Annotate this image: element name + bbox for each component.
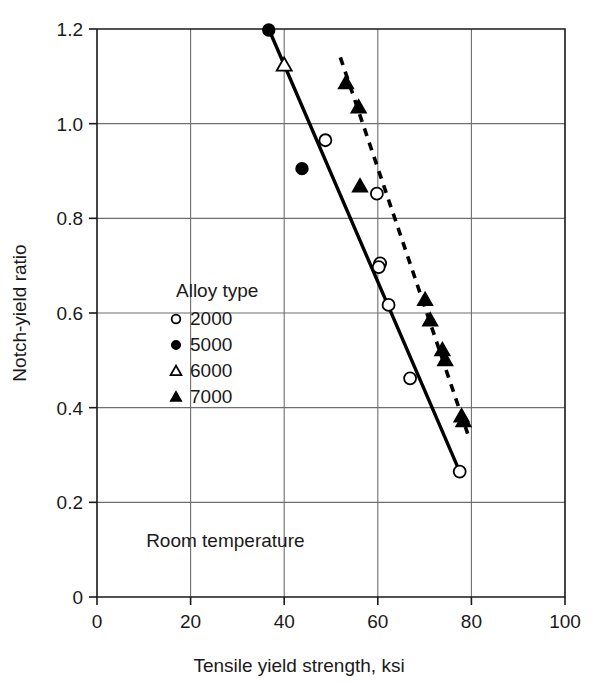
x-tick-label: 40 [274,611,295,632]
marker-open-circle [319,134,331,146]
y-axis-title: Notch-yield ratio [9,244,30,381]
y-tick-label: 0.8 [57,208,83,229]
x-tick-label: 100 [549,611,581,632]
x-tick-label: 80 [461,611,482,632]
marker-open-circle [383,299,395,311]
x-tick-label: 60 [367,611,388,632]
legend-entry-label: 7000 [190,386,232,407]
marker-open-circle-legend [172,315,181,324]
legend-title: Alloy type [176,280,258,301]
marker-open-circle [404,372,416,384]
y-tick-label: 1.2 [57,19,83,40]
y-tick-label: 0 [72,587,83,608]
x-axis-title: Tensile yield strength, ksi [193,655,404,676]
legend-entry-label: 6000 [190,360,232,381]
marker-filled-circle [296,163,308,175]
y-tick-label: 0.4 [57,398,84,419]
marker-filled-circle [263,24,275,36]
annotation-room-temperature: Room temperature [146,530,304,551]
legend-entry-label: 2000 [190,308,232,329]
marker-open-circle [373,261,385,273]
y-tick-label: 0.2 [57,492,83,513]
y-tick-label: 0.6 [57,303,83,324]
marker-filled-circle-legend [172,341,181,350]
chart-canvas: 020406080100 00.20.40.60.81.01.2 Tensile… [0,0,599,683]
x-tick-label: 0 [92,611,103,632]
legend-entry-label: 5000 [190,334,232,355]
y-tick-label: 1.0 [57,114,83,135]
plot-annotations: Room temperature [146,530,304,551]
marker-open-circle [371,188,383,200]
notch-yield-ratio-chart: 020406080100 00.20.40.60.81.01.2 Tensile… [0,0,599,683]
marker-open-circle [454,466,466,478]
x-tick-label: 20 [180,611,201,632]
